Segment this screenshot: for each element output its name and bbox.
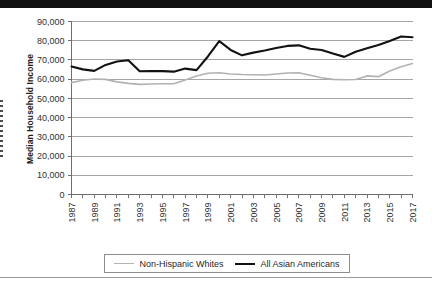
x-tick-label: 1999 (203, 203, 213, 223)
y-tick-label: 10,000 (37, 170, 65, 180)
x-tick-label: 1991 (112, 203, 122, 223)
x-tick-label: 1989 (90, 203, 100, 223)
legend-label-all-asian-americans: All Asian Americans (260, 259, 339, 269)
y-tick-label: 30,000 (37, 132, 65, 142)
y-tick-label: 0 (59, 190, 64, 200)
series-line-non-hispanic-whites (72, 64, 413, 85)
x-tick-label: 2003 (249, 203, 259, 223)
x-tick-label: 1997 (181, 203, 191, 223)
x-tick-label: 1987 (67, 203, 77, 223)
legend-label-non-hispanic-whites: Non-Hispanic Whites (139, 259, 223, 269)
y-tick-label: 20,000 (37, 151, 65, 161)
chart-figure: Median Household Income 010,00020,00030,… (0, 0, 432, 289)
legend-line-swatch-asian (235, 263, 255, 265)
x-tick-label: 1995 (158, 203, 168, 223)
x-tick-label: 2005 (272, 203, 282, 223)
x-tick-label: 2011 (340, 203, 350, 222)
legend-line-swatch-whites (114, 263, 134, 264)
x-tick-label: 2013 (362, 203, 372, 223)
y-tick-label: 90,000 (37, 17, 65, 27)
x-tick-label: 2015 (385, 203, 395, 223)
legend-item-all-asian-americans[interactable]: All Asian Americans (235, 259, 339, 269)
y-tick-label: 50,000 (37, 94, 65, 104)
y-tick-label: 40,000 (37, 113, 65, 123)
y-tick-label: 70,000 (37, 55, 65, 65)
line-chart-plot: 010,00020,00030,00040,00050,00060,00070,… (0, 0, 432, 289)
x-tick-label: 1993 (135, 203, 145, 223)
series-line-all-asian-americans (72, 36, 413, 71)
y-tick-label: 60,000 (37, 74, 65, 84)
x-tick-label: 2017 (408, 203, 418, 223)
bottom-divider (0, 277, 432, 278)
y-tick-label: 80,000 (37, 36, 65, 46)
legend-item-non-hispanic-whites[interactable]: Non-Hispanic Whites (114, 259, 223, 269)
x-tick-label: 2001 (226, 203, 236, 223)
chart-legend: Non-Hispanic Whites All Asian Americans (104, 254, 350, 273)
x-tick-label: 2009 (317, 203, 327, 223)
x-tick-label: 2007 (294, 203, 304, 223)
